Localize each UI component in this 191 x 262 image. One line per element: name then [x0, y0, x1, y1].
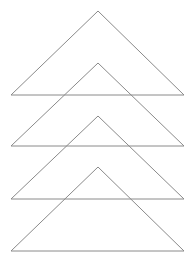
triangle-4 — [11, 167, 184, 251]
stacked-triangles-figure — [0, 0, 191, 262]
triangle-1 — [11, 11, 184, 95]
triangle-3 — [11, 116, 184, 199]
triangle-2 — [11, 63, 184, 146]
diagram-canvas — [0, 0, 191, 262]
